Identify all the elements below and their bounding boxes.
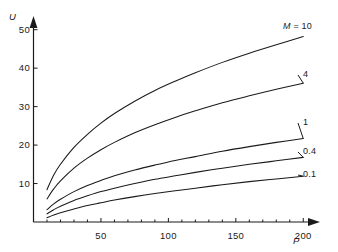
axes-group xyxy=(30,16,320,226)
curve-label-2: 1 xyxy=(303,118,308,127)
y-axis-title: U xyxy=(9,12,16,22)
curve-m-10 xyxy=(47,37,303,190)
curve-label-1: 4 xyxy=(303,70,308,79)
data-curves-group xyxy=(47,37,303,218)
curve-label-0: M = 10 xyxy=(283,22,312,31)
curve-label-3: 0.4 xyxy=(303,147,316,156)
curve-1 xyxy=(47,139,303,210)
x-axis-title: P xyxy=(293,236,299,246)
curve-label-4: 0.1 xyxy=(303,170,316,179)
x-axis-arrowhead xyxy=(308,218,320,226)
chart-figure: 102030405050100150200 M = 10410.40.1 U P xyxy=(0,0,338,252)
chart-plot-area xyxy=(0,0,338,252)
y-tick-label-20: 20 xyxy=(0,140,30,150)
x-tick-label-100: 100 xyxy=(153,231,183,241)
x-tick-label-150: 150 xyxy=(221,231,251,241)
y-tick-label-30: 30 xyxy=(0,102,30,112)
y-tick-label-50: 50 xyxy=(0,25,30,35)
y-axis-arrowhead xyxy=(30,16,38,28)
y-tick-label-10: 10 xyxy=(0,179,30,189)
y-tick-label-40: 40 xyxy=(0,63,30,73)
curve-label-var: M xyxy=(283,21,291,31)
x-tick-label-50: 50 xyxy=(86,231,116,241)
curve-4 xyxy=(47,83,303,199)
